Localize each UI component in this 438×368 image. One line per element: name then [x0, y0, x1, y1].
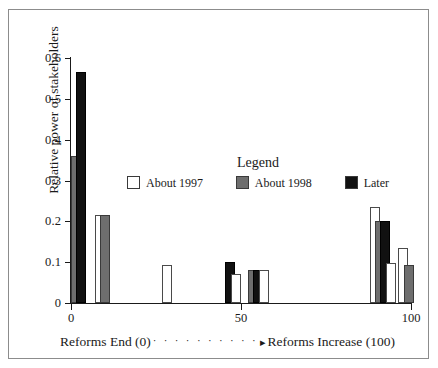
- y-tick-label: 0: [9, 297, 61, 310]
- y-tick-label: 0.5: [9, 93, 61, 106]
- x-axis-title-left: Reforms End (0): [60, 334, 151, 349]
- y-tick-label: 0.4: [9, 133, 61, 146]
- bar: [259, 270, 269, 303]
- x-axis-title-dots: · · · · · · · · · ·: [151, 334, 260, 346]
- y-tick-label: 0.6: [9, 52, 61, 65]
- y-tick-label: 0.1: [9, 256, 61, 269]
- legend-label: About 1998: [255, 177, 312, 189]
- bar: [404, 265, 414, 303]
- figure-border: Relative power of stakeholders 00.10.20.…: [8, 9, 429, 359]
- legend-swatch-black: [345, 176, 358, 189]
- legend: Legend About 1997About 1998Later: [127, 155, 389, 189]
- y-axis-title: Relative power of stakeholders: [46, 0, 62, 225]
- x-tick-label: 50: [216, 312, 266, 325]
- x-tick-mark: [71, 304, 72, 310]
- legend-item: About 1997: [127, 176, 203, 189]
- bar: [162, 265, 172, 303]
- x-tick-mark: [411, 304, 412, 310]
- y-tick-label: 0.2: [9, 215, 61, 228]
- x-axis-title-right: Reforms Increase (100): [267, 334, 394, 349]
- bar: [386, 263, 396, 303]
- legend-swatch-white: [127, 176, 140, 189]
- legend-item: Later: [345, 176, 389, 189]
- legend-label: About 1997: [146, 177, 203, 189]
- x-tick-mark: [241, 304, 242, 310]
- legend-swatch-gray: [236, 176, 249, 189]
- legend-title: Legend: [127, 155, 389, 171]
- x-tick-label: 0: [46, 312, 96, 325]
- y-tick-label: 0.3: [9, 174, 61, 187]
- legend-items: About 1997About 1998Later: [127, 176, 389, 189]
- legend-label: Later: [364, 177, 389, 189]
- x-tick-label: 100: [386, 312, 436, 325]
- bar: [231, 274, 241, 303]
- bar: [76, 72, 86, 303]
- chart-figure: Relative power of stakeholders 00.10.20.…: [0, 0, 438, 368]
- legend-item: About 1998: [236, 176, 312, 189]
- bar: [100, 215, 110, 303]
- x-axis-title: Reforms End (0)· · · · · · · · · ·▸Refor…: [17, 334, 438, 350]
